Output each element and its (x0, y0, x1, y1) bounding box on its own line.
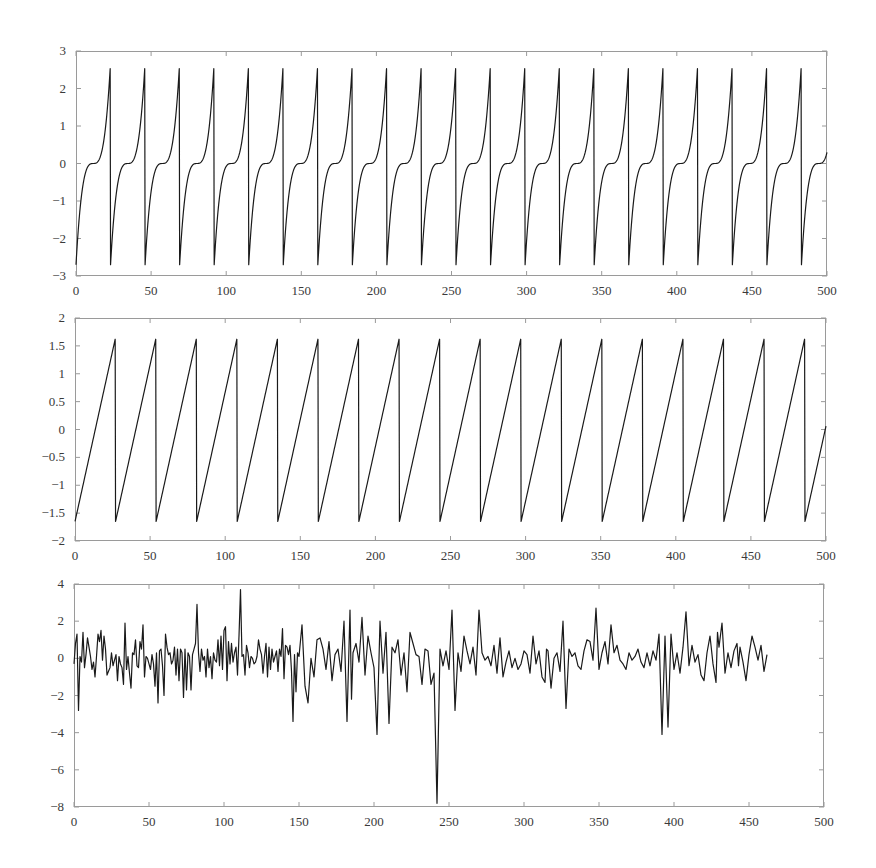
y-tick-label: 2 (26, 82, 66, 95)
y-tick-label: −1 (25, 478, 65, 491)
x-tick-label: 300 (504, 815, 544, 828)
x-tick-label: 300 (506, 549, 546, 562)
y-tick-label: 0 (26, 157, 66, 170)
x-tick-label: 350 (582, 284, 622, 297)
y-tick-label: 0 (24, 651, 64, 664)
x-tick-label: 250 (431, 549, 471, 562)
data-line (76, 69, 827, 265)
x-tick-label: 450 (729, 815, 769, 828)
y-tick-label: 3 (26, 44, 66, 57)
x-tick-label: 450 (732, 284, 772, 297)
x-tick-label: 500 (807, 284, 847, 297)
y-tick-label: −4 (24, 726, 64, 739)
x-tick-label: 400 (656, 549, 696, 562)
x-tick-label: 150 (281, 284, 321, 297)
x-tick-label: 300 (507, 284, 547, 297)
data-line (74, 590, 767, 804)
y-tick-label: 0 (25, 423, 65, 436)
x-tick-label: 100 (206, 284, 246, 297)
axis-ticks (74, 584, 824, 807)
x-tick-label: 50 (131, 284, 171, 297)
y-tick-label: −2 (26, 232, 66, 245)
y-tick-label: −3 (26, 269, 66, 282)
y-tick-label: 1.5 (25, 339, 65, 352)
x-tick-label: 50 (129, 815, 169, 828)
figure: −3−2−10123050100150200250300350400450500… (0, 0, 876, 868)
y-tick-label: −0.5 (25, 450, 65, 463)
y-tick-label: 2 (24, 614, 64, 627)
y-tick-label: −6 (24, 763, 64, 776)
plot-area (74, 584, 824, 807)
x-tick-label: 250 (429, 815, 469, 828)
x-tick-label: 0 (55, 549, 95, 562)
y-tick-label: −2 (25, 534, 65, 547)
x-tick-label: 350 (581, 549, 621, 562)
y-tick-label: −8 (24, 800, 64, 813)
x-tick-label: 100 (205, 549, 245, 562)
x-tick-label: 0 (54, 815, 94, 828)
x-tick-label: 500 (804, 815, 844, 828)
plot-area (76, 51, 827, 276)
y-tick-label: 2 (25, 311, 65, 324)
x-tick-label: 500 (806, 549, 846, 562)
x-tick-label: 200 (355, 549, 395, 562)
x-tick-label: 0 (56, 284, 96, 297)
x-tick-label: 450 (731, 549, 771, 562)
x-tick-label: 100 (204, 815, 244, 828)
x-tick-label: 150 (280, 549, 320, 562)
x-tick-label: 350 (579, 815, 619, 828)
data-line (75, 339, 826, 521)
y-tick-label: −1.5 (25, 506, 65, 519)
y-tick-label: −1 (26, 194, 66, 207)
y-tick-label: 1 (25, 367, 65, 380)
y-tick-label: −2 (24, 689, 64, 702)
plot-area (75, 318, 826, 541)
x-tick-label: 150 (279, 815, 319, 828)
x-tick-label: 200 (354, 815, 394, 828)
y-tick-label: 0.5 (25, 395, 65, 408)
axis-ticks (75, 318, 826, 541)
x-tick-label: 250 (432, 284, 472, 297)
x-tick-label: 200 (356, 284, 396, 297)
x-tick-label: 400 (657, 284, 697, 297)
x-tick-label: 50 (130, 549, 170, 562)
x-tick-label: 400 (654, 815, 694, 828)
y-tick-label: 1 (26, 119, 66, 132)
y-tick-label: 4 (24, 577, 64, 590)
